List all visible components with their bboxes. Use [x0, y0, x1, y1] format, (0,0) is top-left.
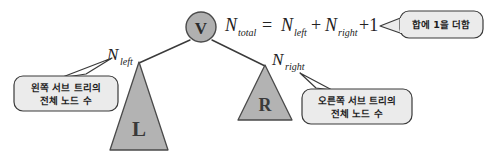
- right-subtree: R: [238, 65, 292, 120]
- formula-plus-one-term: +1: [359, 15, 378, 35]
- formula-lhs-subscript: total: [238, 27, 257, 38]
- leader-right-callout: [300, 73, 332, 90]
- n-right-label: N right: [271, 50, 305, 72]
- n-left-label: N left: [106, 45, 133, 67]
- tree-diagram-svg: L R V N left N right N total = N left: [0, 0, 489, 157]
- formula-term1-subscript: left: [294, 27, 307, 38]
- root-node-label: V: [195, 19, 208, 38]
- leader-left-callout-line: [60, 58, 112, 78]
- leader-left-callout: [60, 58, 112, 78]
- formula-term1-base: N: [280, 15, 294, 35]
- callout-plus-one: 합에 1을 더함: [380, 11, 483, 38]
- root-node: V: [186, 12, 216, 42]
- edge-to-right-subtree: [212, 40, 265, 66]
- left-subtree-label: L: [132, 117, 146, 141]
- callout-right-subtree-line-1: 오른쪽 서브 트리의: [318, 95, 397, 106]
- formula-plus-1: +: [311, 15, 321, 35]
- formula-term2-base: N: [324, 15, 338, 35]
- callout-right-subtree: 오른쪽 서브 트리의 전체 노드 수: [302, 89, 412, 124]
- formula-term2-subscript: right: [338, 27, 358, 38]
- tree-edges: [139, 40, 265, 66]
- callout-left-subtree-line-1: 왼쪽 서브 트리의: [31, 82, 101, 93]
- n-right-subscript: right: [285, 61, 305, 72]
- n-left-subscript: left: [120, 56, 133, 67]
- n-right-base: N: [271, 50, 285, 69]
- formula-equals: =: [262, 15, 272, 35]
- callout-left-subtree: 왼쪽 서브 트리의 전체 노드 수: [14, 76, 118, 111]
- diagram-canvas: L R V N left N right N total = N left: [0, 0, 489, 157]
- callout-left-subtree-line-2: 전체 노드 수: [40, 95, 92, 106]
- callout-right-subtree-line-2: 전체 노드 수: [331, 108, 383, 119]
- callout-plus-one-line-1: 합에 1을 더함: [412, 19, 470, 30]
- n-left-base: N: [106, 45, 120, 64]
- formula-lhs-base: N: [224, 15, 238, 35]
- node-count-formula: N total = N left + N right +1: [224, 15, 378, 38]
- left-subtree: L: [110, 62, 168, 150]
- edge-to-left-subtree: [139, 40, 190, 63]
- right-subtree-label: R: [259, 95, 273, 115]
- leader-right-callout-line: [300, 73, 332, 90]
